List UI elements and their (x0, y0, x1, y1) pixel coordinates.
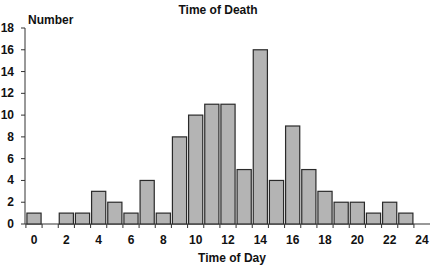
chart-title: Time of Death (178, 3, 257, 17)
bar-series (27, 50, 413, 224)
bar-hour-12 (221, 104, 235, 224)
bar-hour-20 (350, 202, 364, 224)
bar-hour-16 (286, 126, 300, 224)
y-tick-label: 18 (1, 21, 15, 35)
y-tick-label: 14 (1, 65, 15, 79)
y-tick-label: 0 (7, 217, 14, 231)
time-of-death-chart: Time of Death Number Time of Day 0246810… (0, 0, 436, 270)
bar-hour-18 (318, 191, 332, 224)
bar-hour-14 (253, 50, 267, 224)
x-tick-label: 12 (221, 233, 235, 247)
bar-hour-6 (124, 213, 138, 224)
bar-hour-7 (140, 180, 154, 224)
x-tick-label: 16 (286, 233, 300, 247)
chart-canvas: Time of Death Number Time of Day 0246810… (0, 0, 436, 270)
y-tick-label: 2 (7, 195, 14, 209)
y-tick-label: 10 (1, 108, 15, 122)
y-tick-label: 4 (7, 173, 14, 187)
x-tick-label: 6 (128, 233, 135, 247)
x-tick-label: 18 (318, 233, 332, 247)
y-tick-label: 16 (1, 43, 15, 57)
x-tick-label: 4 (95, 233, 102, 247)
x-tick-label: 20 (351, 233, 365, 247)
bar-hour-4 (92, 191, 106, 224)
bar-hour-13 (237, 170, 251, 224)
y-tick-label: 8 (7, 130, 14, 144)
x-tick-label: 24 (415, 233, 429, 247)
x-tick-label: 10 (189, 233, 203, 247)
bar-hour-10 (189, 115, 203, 224)
bar-hour-19 (334, 202, 348, 224)
x-tick-label: 8 (160, 233, 167, 247)
x-tick-label: 0 (31, 233, 38, 247)
y-axis: 024681012141618 (1, 21, 25, 231)
bar-hour-8 (156, 213, 170, 224)
bar-hour-23 (399, 213, 413, 224)
x-tick-label: 14 (254, 233, 268, 247)
bar-hour-11 (205, 104, 219, 224)
x-tick-label: 2 (63, 233, 70, 247)
x-axis-label: Time of Day (198, 251, 266, 265)
y-tick-label: 6 (7, 152, 14, 166)
bar-hour-21 (366, 213, 380, 224)
bar-hour-0 (27, 213, 41, 224)
bar-hour-15 (269, 180, 283, 224)
y-tick-label: 12 (1, 86, 15, 100)
y-axis-label: Number (28, 13, 74, 27)
bar-hour-9 (172, 137, 186, 224)
x-axis: 024681012141618202224 (25, 224, 430, 247)
x-tick-label: 22 (383, 233, 397, 247)
bar-hour-3 (75, 213, 89, 224)
bar-hour-22 (383, 202, 397, 224)
bar-hour-17 (302, 170, 316, 224)
bar-hour-5 (108, 202, 122, 224)
bar-hour-2 (59, 213, 73, 224)
